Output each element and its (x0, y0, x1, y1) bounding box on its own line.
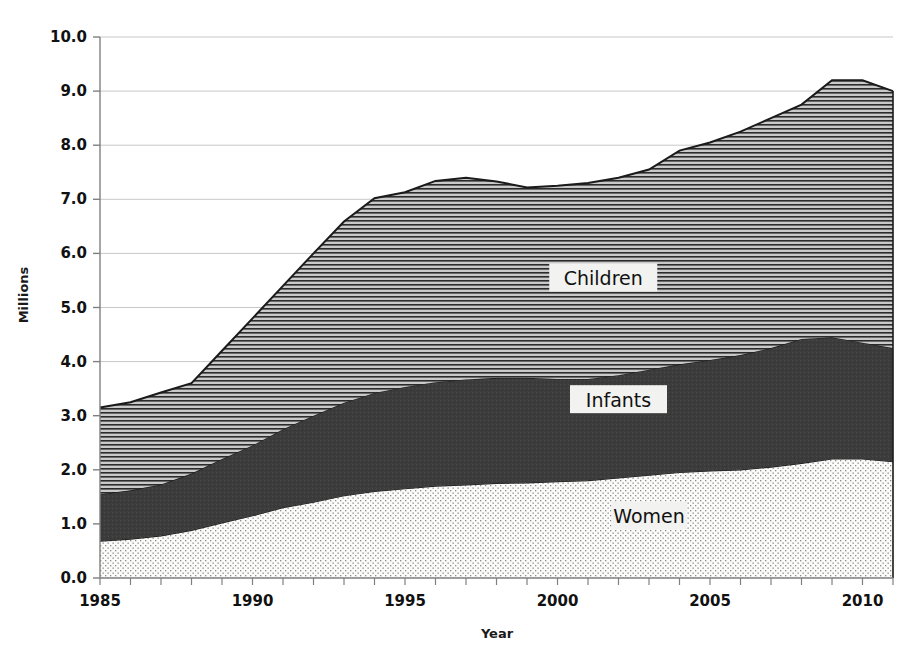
x-tick-label: 1990 (232, 592, 274, 610)
y-tick-label: 5.0 (60, 299, 87, 317)
y-tick-label: 9.0 (60, 82, 87, 100)
chart-canvas: 0.01.02.03.04.05.06.07.08.09.010.0 19851… (0, 0, 905, 659)
stacked-area-chart: 0.01.02.03.04.05.06.07.08.09.010.0 19851… (0, 0, 905, 659)
y-tick-label: 3.0 (60, 407, 87, 425)
y-tick-label: 0.0 (60, 569, 87, 587)
x-tick-label: 2010 (842, 592, 884, 610)
y-tick-label: 8.0 (60, 136, 87, 154)
y-tick-label: 10.0 (50, 28, 87, 46)
y-tick-label: 6.0 (60, 244, 87, 262)
x-tick-label: 2000 (537, 592, 579, 610)
series-label-women: Women (613, 505, 685, 527)
y-tick-label: 1.0 (60, 515, 87, 533)
series-label-infants: Infants (586, 389, 651, 411)
y-axis-title: Millions (16, 266, 31, 323)
x-axis-title: Year (480, 626, 514, 641)
x-tick-label: 1995 (384, 592, 426, 610)
y-tick-label: 2.0 (60, 461, 87, 479)
y-tick-label: 7.0 (60, 190, 87, 208)
y-tick-label: 4.0 (60, 353, 87, 371)
x-tick-label: 1985 (79, 592, 121, 610)
series-label-children: Children (564, 267, 643, 289)
x-tick-label: 2005 (689, 592, 731, 610)
